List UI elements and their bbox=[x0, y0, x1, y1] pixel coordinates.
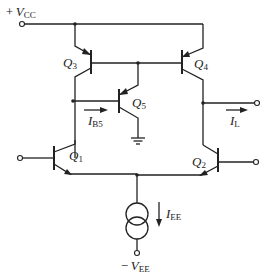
q3-label: Q3 bbox=[63, 55, 77, 71]
vcc-label: +VCC bbox=[5, 4, 36, 20]
vee-terminal[interactable] bbox=[135, 251, 140, 256]
ib5-label: IB5 bbox=[87, 113, 103, 129]
output-terminal[interactable] bbox=[255, 101, 260, 106]
il-label: IL bbox=[229, 113, 240, 129]
input-terminal-q2[interactable] bbox=[254, 160, 259, 165]
iee-label: IEE bbox=[165, 206, 182, 222]
iee-arrow-icon bbox=[156, 202, 162, 227]
output-node bbox=[201, 101, 254, 105]
input-terminal-q1[interactable] bbox=[18, 156, 23, 161]
q1-label: Q1 bbox=[69, 148, 83, 164]
current-source-iee bbox=[126, 173, 148, 250]
circuit-diagram: +VCC Q3 Q4 Q5 bbox=[0, 0, 266, 277]
q2-label: Q2 bbox=[192, 154, 206, 170]
q4-label: Q4 bbox=[194, 56, 208, 72]
ground-icon bbox=[131, 138, 145, 144]
vee-label: −VEE bbox=[120, 258, 150, 274]
transistor-q4 bbox=[182, 24, 203, 145]
transistor-q5 bbox=[71, 63, 138, 138]
vcc-rail bbox=[24, 22, 203, 26]
q5-label: Q5 bbox=[132, 95, 146, 111]
transistor-q3 bbox=[75, 24, 182, 158]
vcc-terminal[interactable] bbox=[20, 22, 25, 27]
